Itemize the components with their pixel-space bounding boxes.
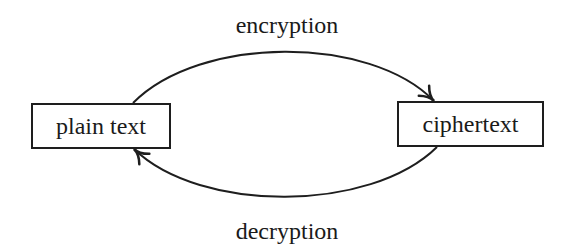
decryption-label: decryption <box>236 219 339 243</box>
ciphertext-node: ciphertext <box>397 101 544 147</box>
diagram-canvas: plain text ciphertext encryption decrypt… <box>0 0 567 252</box>
plain-text-label: plain text <box>56 114 146 138</box>
encryption-arrow <box>133 52 434 103</box>
encryption-label: encryption <box>236 13 339 37</box>
ciphertext-label: ciphertext <box>423 112 519 136</box>
decryption-arrow <box>134 147 437 197</box>
plain-text-node: plain text <box>31 103 171 149</box>
